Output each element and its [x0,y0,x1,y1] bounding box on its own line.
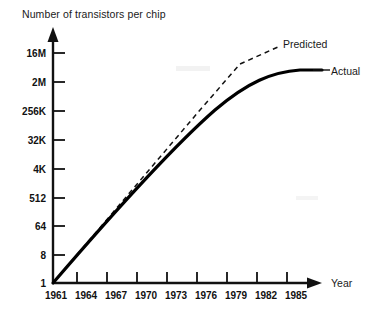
x-tick-label-1961: 1961 [45,290,67,301]
y-tick-label-1: 1 [6,278,46,289]
x-tick-label-1985: 1985 [285,290,307,301]
y-tick-label-64: 64 [6,221,46,232]
x-axis-ticks [77,272,287,283]
x-tick-label-1967: 1967 [105,290,127,301]
predicted-series-line [53,47,278,283]
y-tick-label-4k: 4K [6,164,46,175]
y-tick-label-32k: 32K [6,135,46,146]
x-tick-label-1973: 1973 [165,290,187,301]
x-tick-label-1979: 1979 [225,290,247,301]
y-tick-label-256k: 256K [6,106,46,117]
y-axis-arrow-icon [48,27,59,42]
y-tick-label-512: 512 [6,193,46,204]
y-tick-label-16m: 16M [6,48,46,59]
x-axis-arrow-icon [307,278,322,289]
x-tick-label-1964: 1964 [75,290,97,301]
actual-series-label: Actual [331,65,360,77]
x-tick-label-1982: 1982 [255,290,277,301]
x-tick-label-1976: 1976 [195,290,217,301]
actual-series-line [53,70,322,283]
transistor-count-chart: Number of transistors per chip [0,0,371,314]
x-tick-label-1970: 1970 [135,290,157,301]
predicted-series-label: Predicted [283,38,327,50]
y-tick-label-2m: 2M [6,77,46,88]
y-axis-ticks [53,53,65,255]
y-tick-label-8: 8 [6,250,46,261]
x-axis-label: Year [331,277,352,289]
